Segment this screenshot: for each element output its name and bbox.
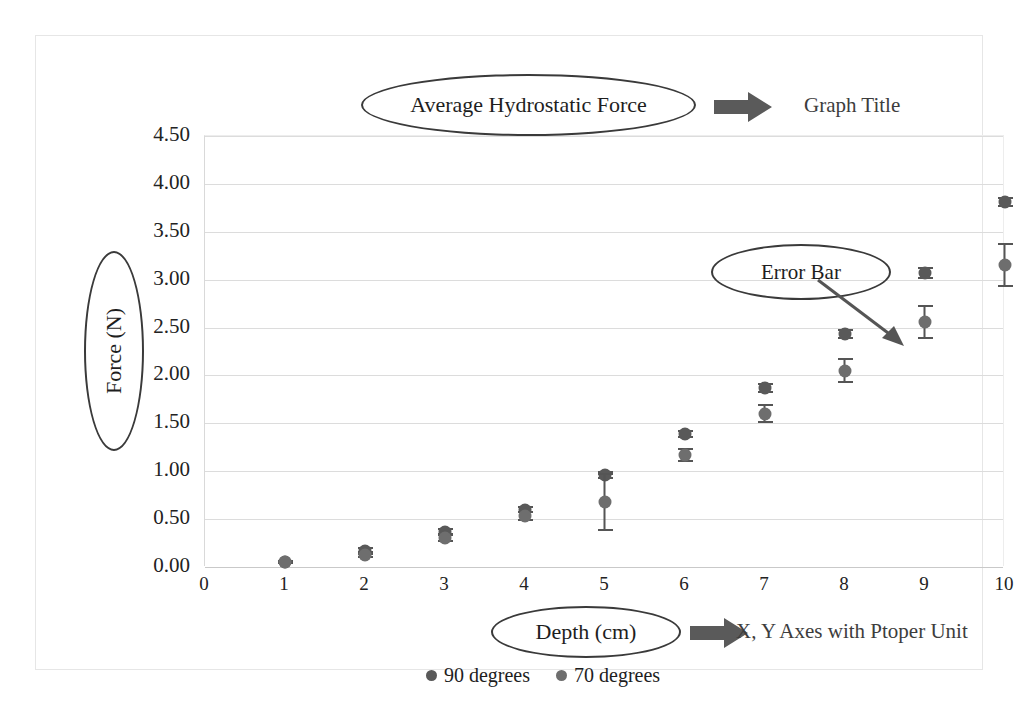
data-point [519,510,532,523]
callout-label-title: Graph Title [804,93,900,118]
x-axis-tick-label: 4 [504,574,544,593]
x-axis-tick-label: 10 [984,574,1014,593]
gridline [205,423,1003,424]
x-axis-tick-label: 1 [264,574,304,593]
gridline [205,567,1003,568]
gridline [205,136,1003,137]
x-axis-tick-label: 0 [184,574,224,593]
x-axis-tick-label: 5 [584,574,624,593]
x-axis-title: Depth (cm) [536,619,637,645]
data-point [679,427,692,440]
callout-arrow-title-icon [712,90,774,124]
gridline [205,375,1003,376]
x-axis-tick-label: 8 [824,574,864,593]
legend-item[interactable]: 70 degrees [556,664,660,687]
data-point [439,532,452,545]
y-axis-tick-label: 2.00 [120,363,190,384]
callout-label-axes: X, Y Axes with Ptoper Unit [736,619,968,644]
chart-legend: 90 degrees70 degrees [36,664,1014,687]
y-axis-tick-label: 1.00 [120,459,190,480]
annotation-ellipse-x-axis-title: Depth (cm) [491,606,681,658]
gridline [205,184,1003,185]
x-axis-tick-label: 9 [904,574,944,593]
legend-marker-icon [426,670,437,681]
data-point [599,495,612,508]
gridline [205,232,1003,233]
data-point [839,364,852,377]
legend-marker-icon [556,670,567,681]
x-axis-tick-label: 7 [744,574,784,593]
scan-artifact [52,2,202,14]
y-axis-tick-label: 0.00 [120,555,190,576]
data-point [279,556,292,569]
data-point [359,548,372,561]
x-axis-tick-label: 6 [664,574,704,593]
data-point [679,448,692,461]
y-axis-tick-label: 2.50 [120,316,190,337]
y-axis-tick-label: 3.00 [120,268,190,289]
chart-frame: Average Hydrostatic Force Graph Title Fo… [35,35,983,670]
y-axis-tick-label: 1.50 [120,411,190,432]
y-axis-tick-label: 4.50 [120,124,190,145]
data-point [759,407,772,420]
legend-item[interactable]: 90 degrees [426,664,530,687]
data-point [759,381,772,394]
callout-arrow-error-bar-icon [816,276,926,366]
chart-title: Average Hydrostatic Force [410,92,647,118]
data-point [999,259,1012,272]
annotation-ellipse-title: Average Hydrostatic Force [361,74,696,136]
y-axis-tick-label: 3.50 [120,220,190,241]
legend-label: 70 degrees [574,664,660,687]
x-axis-tick-label: 3 [424,574,464,593]
data-point [999,196,1012,209]
legend-label: 90 degrees [444,664,530,687]
x-axis-tick-label: 2 [344,574,384,593]
y-axis-tick-label: 0.50 [120,507,190,528]
y-axis-tick-label: 4.00 [120,172,190,193]
